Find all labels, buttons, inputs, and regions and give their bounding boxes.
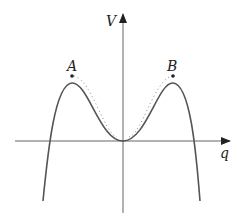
point-a-label: A xyxy=(65,58,77,74)
q-axis-label: q xyxy=(220,145,229,161)
point-b-dot xyxy=(171,74,175,78)
point-b-label: B xyxy=(166,58,177,74)
potential-diagram: A B V q xyxy=(0,0,240,220)
point-a-dot xyxy=(70,74,74,78)
v-axis-label: V xyxy=(106,13,118,29)
solid-curve xyxy=(43,83,200,201)
